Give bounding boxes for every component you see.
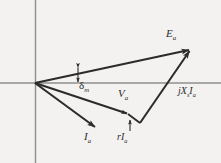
label-Ea: Ea [166, 28, 176, 42]
label-rIa: rIa [117, 132, 127, 144]
phasor-diagram-canvas [0, 0, 221, 163]
vector-Ea [35, 50, 189, 83]
label-Va: Va [118, 88, 128, 102]
label-jXsIa: jXsIa [178, 86, 196, 98]
label-Ia: Ia [84, 131, 91, 145]
label-delta-m: δm [79, 80, 89, 94]
phasor-diagram-figure: Ea jXsIa Va Ia rIa δm [0, 0, 221, 163]
